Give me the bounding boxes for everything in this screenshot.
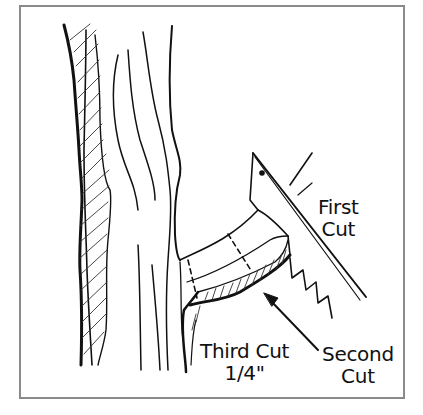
branch-mid-line (187, 236, 288, 282)
trunk-right-edge (170, 26, 181, 260)
trunk-left-edge (64, 25, 82, 365)
branch-top-face (258, 210, 288, 236)
branch-end (288, 236, 290, 255)
branch-top-edge (180, 210, 258, 260)
arrow-icon (264, 293, 278, 306)
saw-rivet (259, 170, 265, 176)
trunk-hatch-border (95, 35, 111, 365)
first-cut-line1: First (318, 196, 359, 218)
first-cut-line2: Cut (318, 218, 359, 240)
first-cut-label: First Cut (318, 196, 359, 240)
third-cut-line1: Third Cut (200, 340, 289, 362)
collar-inner (191, 320, 196, 365)
third-cut-label: Third Cut 1/4" (200, 340, 289, 384)
second-cut-zigzag (290, 258, 332, 318)
branch-collar-lower (183, 310, 186, 372)
bark-line-2b (152, 265, 160, 370)
third-cut-line2: 1/4" (200, 362, 289, 384)
saw-handle-2 (298, 183, 312, 195)
saw-tip (250, 153, 258, 210)
trunk-right-lower (180, 262, 183, 340)
saw-handle-1 (290, 153, 312, 185)
trunk-hatching (70, 24, 109, 354)
bark-line-2 (128, 50, 155, 200)
bark-line-1b (138, 245, 141, 370)
second-cut-line2: Cut (322, 365, 394, 387)
second-cut-label: Second Cut (322, 343, 394, 387)
second-cut-line1: Second (322, 343, 394, 365)
trunk-inner-line (84, 30, 92, 365)
branch-lower-face (198, 240, 288, 292)
bark-line-1 (114, 55, 139, 210)
